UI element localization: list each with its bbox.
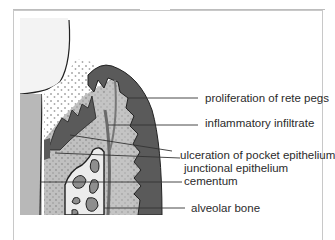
label-rete-pegs: proliferation of rete pegs [205,92,329,105]
dentin-root [20,94,42,215]
marrow-space [90,160,99,173]
label-cementum: cementum [184,175,238,188]
label-alveolar-bone: alveolar bone [191,202,260,215]
junctional-epithelium [44,138,50,160]
label-ulceration: ulceration of pocket epithelium [180,149,335,162]
marrow-space [86,198,98,212]
label-junctional-epithelium: junctional epithelium [184,162,288,175]
marrow-space [72,210,78,216]
label-inflammatory-infiltrate: inflammatory infiltrate [205,117,314,130]
